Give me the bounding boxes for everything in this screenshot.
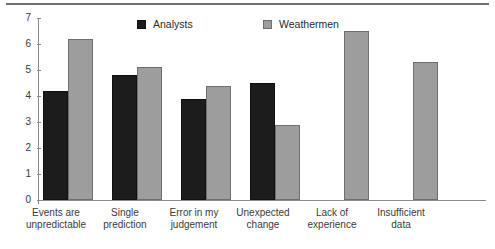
y-axis-tick: [37, 122, 41, 123]
bar-weathermen: [275, 125, 300, 200]
x-axis-category-label: Single prediction: [95, 207, 155, 231]
x-axis-line: [38, 200, 486, 201]
bar-chart: Analysts Weathermen 76543210 Events are …: [0, 0, 495, 249]
y-axis-tick: [37, 70, 41, 71]
x-axis-category-label: Lack of experience: [302, 207, 362, 231]
y-axis-tick-label: 6: [25, 39, 31, 49]
bar-weathermen: [344, 31, 369, 200]
x-axis-category-label: Events are unpredictable: [26, 207, 86, 231]
bar-analysts: [43, 91, 68, 200]
bar-analysts: [250, 83, 275, 200]
bar-analysts: [181, 99, 206, 200]
plot-area: 76543210 Events are unpredictableSingle …: [38, 14, 486, 204]
y-axis-tick: [37, 96, 41, 97]
y-axis-tick-label: 1: [25, 169, 31, 179]
y-axis-tick: [37, 148, 41, 149]
bar-weathermen: [137, 67, 162, 200]
y-axis-tick: [37, 200, 41, 201]
bar-weathermen: [68, 39, 93, 200]
bar-weathermen: [206, 86, 231, 200]
x-axis-category-label: Unexpected change: [233, 207, 293, 231]
bar-weathermen: [413, 62, 438, 200]
y-axis-tick-label: 4: [25, 91, 31, 101]
y-axis-line: [38, 18, 39, 204]
y-axis-tick-label: 0: [25, 195, 31, 205]
y-axis-tick: [37, 18, 41, 19]
y-axis-tick-label: 3: [25, 117, 31, 127]
x-axis-category-label: Insufficient data: [371, 207, 431, 231]
y-axis-tick-label: 5: [25, 65, 31, 75]
y-axis-tick-label: 7: [25, 13, 31, 23]
x-axis-category-label: Error in my judgement: [164, 207, 224, 231]
y-axis-tick: [37, 174, 41, 175]
y-axis-tick: [37, 44, 41, 45]
y-axis-tick-label: 2: [25, 143, 31, 153]
bar-analysts: [112, 75, 137, 200]
top-divider-rule: [6, 3, 489, 5]
